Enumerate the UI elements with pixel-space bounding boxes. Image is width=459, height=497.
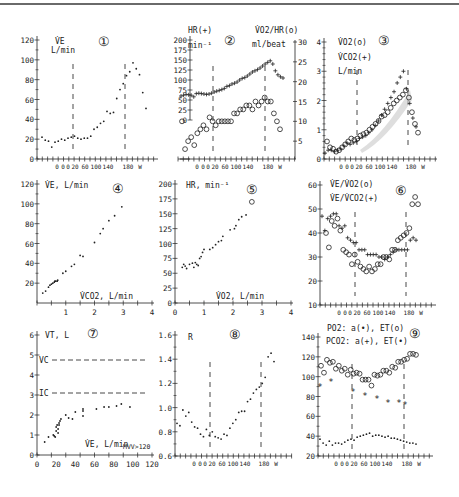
y-tick-label: 50 <box>308 205 318 214</box>
x-tick-label: 0 <box>339 163 343 170</box>
x-tick-label: 60 <box>365 163 373 170</box>
data-circle <box>183 147 188 152</box>
data-dot <box>181 266 183 268</box>
data-circle <box>388 105 393 110</box>
x-tick-label: 180 <box>402 460 413 467</box>
reference-line-label: IC <box>39 389 49 398</box>
data-dot <box>176 422 178 424</box>
data-dot <box>341 443 343 445</box>
y-axis-title: HR, min⁻¹ <box>186 181 229 190</box>
panel-number-label: ④ <box>112 181 124 196</box>
y-tick-label: 10 <box>308 301 318 310</box>
figure-canvas: 0204060801001200002060100140180WV̇EL/min… <box>0 0 459 497</box>
data-dot <box>353 439 355 441</box>
panel-number-label: ② <box>224 33 236 48</box>
y-tick-label-right: 5 <box>298 137 303 146</box>
y-axis-title-vo2: V̇O2(o) <box>338 37 367 47</box>
data-dot <box>82 410 84 412</box>
data-dot <box>93 128 95 130</box>
data-dot <box>106 111 108 113</box>
data-dot <box>87 137 89 139</box>
panel-9-partial-pressures: 204060801001201400002060100140180W******… <box>301 324 433 467</box>
data-dot <box>267 356 269 358</box>
x-tick-label: 60 <box>218 460 226 467</box>
data-circle <box>271 111 276 116</box>
data-dot <box>132 62 134 64</box>
x-tick-label: 60 <box>221 163 229 170</box>
data-dot <box>64 139 66 141</box>
panel-2-hr-o2pulse: 0255075100125150175200510152025300002060… <box>173 25 307 170</box>
data-dot <box>253 392 255 394</box>
panel-5-hr-vs-vo2: 025507510012515017520001234HR, min⁻¹V̇O2… <box>158 180 293 317</box>
data-dot <box>234 228 236 230</box>
data-dot <box>390 437 392 439</box>
x-tick-label: 100 <box>126 460 140 469</box>
data-dot <box>41 136 43 138</box>
data-dot <box>108 220 110 222</box>
data-dot <box>57 428 59 430</box>
y-tick-label: 4 <box>316 38 321 47</box>
data-dot <box>397 438 399 440</box>
data-dot <box>188 412 190 414</box>
panel-number-label: ① <box>98 34 110 49</box>
data-dot <box>51 146 53 148</box>
data-circle <box>385 110 390 115</box>
data-dot <box>199 257 201 259</box>
data-dot <box>209 249 211 251</box>
x-tick-label: 0 <box>173 308 178 317</box>
data-dot <box>59 420 61 422</box>
data-dot <box>96 126 98 128</box>
data-dot <box>270 352 272 354</box>
x-tick-label: W <box>417 460 421 467</box>
data-dot <box>74 135 76 137</box>
x-tick-label: 20 <box>355 163 363 170</box>
y-tick-label: 120 <box>301 353 315 362</box>
data-dot <box>264 376 266 378</box>
data-dot <box>409 442 411 444</box>
y-tick-label: 3 <box>29 391 34 400</box>
data-dot <box>412 442 414 444</box>
data-dot <box>378 434 380 436</box>
data-circle <box>391 101 396 106</box>
y-axis-unit: L/min <box>51 46 75 55</box>
data-star: * <box>362 391 367 401</box>
y-tick-label: 1 <box>316 126 321 135</box>
x-tick-label: 0 <box>337 309 341 316</box>
data-dot <box>72 418 74 420</box>
data-circle <box>268 99 273 104</box>
data-circle <box>189 135 194 140</box>
x-tick-label: 100 <box>370 460 381 467</box>
data-dot <box>70 136 72 138</box>
data-dot <box>244 410 246 412</box>
data-circle <box>278 127 283 132</box>
data-dot <box>55 426 57 428</box>
y-axis-title: R <box>188 333 193 342</box>
x-axis-title: V̇O2, L/min <box>216 291 264 301</box>
y-tick-label: 175 <box>173 46 187 55</box>
x-tick-label: 1 <box>63 308 68 317</box>
data-star: * <box>317 382 322 392</box>
data-dot <box>54 141 56 143</box>
data-dot <box>103 120 105 122</box>
panel-number-label: ⑦ <box>87 326 99 341</box>
data-dot <box>94 242 96 244</box>
data-dot <box>218 241 220 243</box>
data-dot <box>415 443 417 445</box>
x-tick-label: 60 <box>90 460 100 469</box>
panel-8-respiratory-exchange-ratio: 0.60.81.01.21.41.60002060100140180WR⑧ <box>158 327 292 467</box>
data-dot <box>193 266 195 268</box>
x-tick-label: 100 <box>373 309 384 316</box>
data-circle <box>204 127 209 132</box>
y-axis-title-vco2: V̇CO2(+) <box>338 52 372 62</box>
y-tick-label: 40 <box>308 229 318 238</box>
y-tick-label: 0 <box>316 155 321 164</box>
data-dot <box>258 386 260 388</box>
data-dot <box>126 75 128 77</box>
left-axis-unit: min⁻¹ <box>188 41 212 50</box>
data-circle <box>354 370 359 375</box>
data-circle <box>324 231 329 236</box>
data-dot <box>48 140 50 142</box>
data-circle <box>413 195 418 200</box>
data-dot <box>57 140 59 142</box>
data-dot <box>347 439 349 441</box>
